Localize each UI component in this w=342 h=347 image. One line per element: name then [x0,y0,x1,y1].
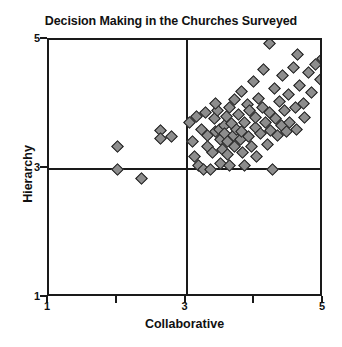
y-axis-tick [40,37,47,39]
x-axis-tick-label: 5 [319,300,325,312]
data-point [154,132,167,145]
data-point [314,74,320,87]
data-point [276,69,289,82]
x-axis-minor-tick [252,296,254,303]
data-point [263,40,276,50]
y-axis-tick-label: 1 [28,290,40,302]
data-point [111,163,124,176]
data-point [292,48,305,61]
data-point [294,79,307,92]
reference-line-vertical [186,40,188,294]
x-axis-tick-label: 1 [44,300,50,312]
y-axis-title: Hierarchy [21,94,35,254]
x-axis-tick-label: 3 [181,300,187,312]
data-point [111,140,124,153]
data-point [135,172,148,185]
plot-frame [47,38,322,296]
data-point [186,135,199,148]
y-axis-tick-label: 5 [28,32,40,44]
data-point [261,138,274,151]
scatter-plot-figure: Decision Making in the Churches Surveyed… [0,0,342,347]
data-point [298,111,311,124]
y-axis-tick [40,295,47,297]
y-axis-tick [40,166,47,168]
data-point [248,76,261,89]
data-point [239,159,252,172]
plot-canvas [49,40,320,294]
data-point [165,130,178,143]
chart-title: Decision Making in the Churches Surveyed [0,14,342,28]
data-point [287,61,300,74]
data-point [257,63,270,76]
data-point [305,87,318,100]
x-axis-title: Collaborative [47,317,322,331]
data-point [266,163,279,176]
data-point [268,82,281,95]
x-axis-minor-tick [115,296,117,303]
